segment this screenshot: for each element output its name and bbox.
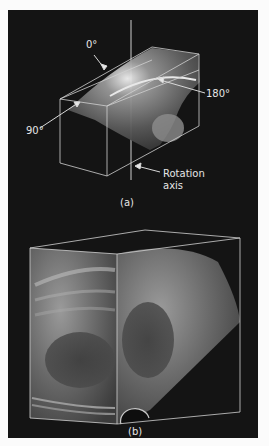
panel-a-volume — [40, 20, 205, 180]
angle-label-90: 90° — [26, 125, 44, 136]
panel-b-volume — [30, 230, 240, 424]
rotation-axis-label-line1: Rotation — [163, 168, 205, 179]
angle-label-0: 0° — [86, 39, 97, 50]
panel-b-caption: (b) — [128, 426, 142, 437]
panel-a-caption: (a) — [120, 197, 134, 208]
figure-graphics — [0, 0, 269, 446]
rotation-axis-label-line2: axis — [163, 180, 183, 191]
angle-label-180: 180° — [206, 88, 230, 99]
